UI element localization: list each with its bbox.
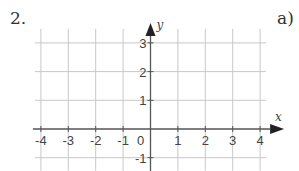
x-tick-label: -4 (35, 133, 47, 148)
x-tick-label: 2 (202, 133, 209, 148)
x-axis-arrow-icon (270, 124, 284, 134)
y-tick-label: 2 (139, 65, 146, 80)
x-tick-label: -3 (63, 133, 75, 148)
origin-label: 0 (137, 133, 144, 148)
x-tick-label: 3 (229, 133, 236, 148)
y-tick-label: 3 (139, 36, 146, 51)
y-axis-label: y (156, 18, 164, 32)
x-axis-label: x (275, 110, 282, 124)
y-tick-label: -1 (135, 151, 147, 166)
axes (33, 23, 284, 171)
y-tick-label: 1 (139, 93, 146, 108)
x-tick-label: 1 (174, 133, 181, 148)
x-tick-label: 4 (256, 133, 263, 148)
x-tick-label: -2 (90, 133, 102, 148)
y-axis-arrow-icon (146, 23, 156, 36)
tick-labels: -4-3-2-11234321-10xy (35, 18, 282, 166)
coordinate-plane: -4-3-2-11234321-10xy (0, 0, 299, 171)
x-tick-label: -1 (117, 133, 129, 148)
